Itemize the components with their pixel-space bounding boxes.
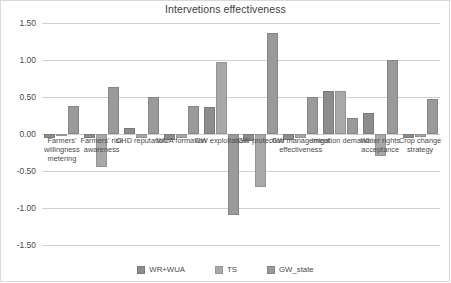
- legend-label: TS: [227, 265, 237, 274]
- bar-slots: [122, 23, 162, 245]
- y-axis-tick-label: 0.00: [2, 129, 36, 139]
- chart-legend: WR+WUATSGW_state: [0, 265, 451, 274]
- bar-slot: [427, 23, 438, 245]
- legend-item[interactable]: TS: [215, 265, 237, 274]
- bar-slots: [281, 23, 321, 245]
- bar[interactable]: [216, 62, 227, 134]
- bar-slot: [415, 23, 426, 245]
- bar-slot: [44, 23, 55, 245]
- x-axis-category-label: Crop change strategy: [390, 136, 450, 154]
- bar-slot: [216, 23, 227, 245]
- bar[interactable]: [148, 97, 159, 134]
- bar[interactable]: [68, 106, 79, 134]
- plot-area: 1.501.000.500.00-0.50-1.00-1.50 Farmers'…: [42, 23, 440, 245]
- bar[interactable]: [427, 99, 438, 134]
- bar-slots: [161, 23, 201, 245]
- bar-slot: [255, 23, 266, 245]
- bar-slot: [347, 23, 358, 245]
- chart-container: Intervetions effectiveness 1.501.000.500…: [0, 0, 451, 283]
- bar-slots: [360, 23, 400, 245]
- bar-slots: [400, 23, 440, 245]
- bar[interactable]: [363, 113, 374, 134]
- bar-group: CHD reputation: [122, 23, 162, 245]
- bar-slot: [176, 23, 187, 245]
- bar-slot: [283, 23, 294, 245]
- legend-item[interactable]: GW_state: [267, 265, 314, 274]
- bar-group: Farmers' risk awareness: [82, 23, 122, 245]
- legend-swatch-icon: [137, 266, 145, 274]
- bar[interactable]: [188, 106, 199, 134]
- bar-group: Water rights acceptance: [360, 23, 400, 245]
- chart-title: Intervetions effectiveness: [0, 3, 451, 15]
- bar[interactable]: [228, 134, 239, 215]
- legend-label: WR+WUA: [149, 265, 185, 274]
- bar-slot: [323, 23, 334, 245]
- bar-group: Irrigation demand: [321, 23, 361, 245]
- bar-slot: [363, 23, 374, 245]
- bar-group: GW protection: [241, 23, 281, 245]
- bar-slot: [68, 23, 79, 245]
- legend-swatch-icon: [215, 266, 223, 274]
- bar-groups: Farmers' willingness meteringFarmers' ri…: [42, 23, 440, 245]
- bar-slot: [243, 23, 254, 245]
- bar[interactable]: [335, 91, 346, 134]
- bar[interactable]: [267, 33, 278, 134]
- bar-slots: [82, 23, 122, 245]
- bar-slots: [241, 23, 281, 245]
- bar-slot: [188, 23, 199, 245]
- y-axis-tick-label: -1.50: [2, 240, 36, 250]
- bar-slot: [124, 23, 135, 245]
- bar-slot: [108, 23, 119, 245]
- bar[interactable]: [108, 87, 119, 134]
- bar-slot: [228, 23, 239, 245]
- bar-slot: [84, 23, 95, 245]
- y-axis-tick-label: -1.00: [2, 203, 36, 213]
- bar-group: WUA formation: [161, 23, 201, 245]
- bar-slot: [403, 23, 414, 245]
- bar-group: Farmers' willingness metering: [42, 23, 82, 245]
- bar-slots: [321, 23, 361, 245]
- gridline: [42, 245, 440, 246]
- legend-swatch-icon: [267, 266, 275, 274]
- y-axis-tick-label: 1.50: [2, 18, 36, 28]
- y-axis-tick-label: -0.50: [2, 166, 36, 176]
- bar[interactable]: [387, 60, 398, 134]
- bar-slot: [267, 23, 278, 245]
- bar-slot: [96, 23, 107, 245]
- bar-slots: [201, 23, 241, 245]
- legend-item[interactable]: WR+WUA: [137, 265, 185, 274]
- bar[interactable]: [307, 97, 318, 134]
- bar-slot: [387, 23, 398, 245]
- bar-slot: [375, 23, 386, 245]
- bar-group: GW exploitation: [201, 23, 241, 245]
- bar-slot: [164, 23, 175, 245]
- bar-slot: [295, 23, 306, 245]
- bar-group: GW management effectiveness: [281, 23, 321, 245]
- bar-slot: [335, 23, 346, 245]
- bar[interactable]: [323, 91, 334, 134]
- legend-label: GW_state: [279, 265, 314, 274]
- y-axis-tick-label: 1.00: [2, 55, 36, 65]
- y-axis-tick-label: 0.50: [2, 92, 36, 102]
- bar-slots: [42, 23, 82, 245]
- bar-slot: [204, 23, 215, 245]
- bar[interactable]: [124, 128, 135, 134]
- bar-slot: [136, 23, 147, 245]
- bar-slot: [307, 23, 318, 245]
- bar-group: Crop change strategy: [400, 23, 440, 245]
- bar-slot: [56, 23, 67, 245]
- bar[interactable]: [204, 107, 215, 134]
- bar[interactable]: [347, 118, 358, 134]
- bar-slot: [148, 23, 159, 245]
